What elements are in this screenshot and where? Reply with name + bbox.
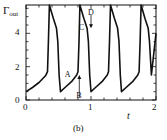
annotation-b: B (76, 91, 81, 100)
y-axis-label: Γout (3, 4, 18, 18)
annotation-a: A (65, 70, 71, 79)
x-tick-label-1: 1 (88, 102, 93, 112)
y-tick-label-0: 0 (15, 95, 20, 105)
annotation-d: D (88, 8, 94, 17)
chart: ABCD Γout 4 2 0 0 1 2 t (b) (0, 0, 167, 140)
x-tick-label-2: 2 (152, 102, 157, 112)
y-tick-label-2: 2 (15, 62, 20, 72)
x-axis-label: t (127, 110, 130, 121)
x-tick-label-0: 0 (23, 102, 28, 112)
annotation-c: C (79, 23, 84, 32)
y-tick-label-4: 4 (15, 27, 20, 37)
panel-label: (b) (73, 123, 84, 133)
